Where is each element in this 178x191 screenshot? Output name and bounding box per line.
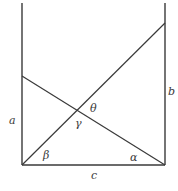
label-c: c — [91, 170, 97, 181]
geometry-diagram: a b c θ γ β α — [0, 0, 178, 191]
label-gamma: γ — [75, 118, 82, 129]
label-alpha: α — [130, 152, 137, 163]
diagram-lines — [0, 0, 178, 191]
label-beta: β — [43, 150, 49, 161]
label-a: a — [9, 115, 16, 126]
label-b: b — [168, 86, 175, 97]
rising-line — [22, 23, 165, 165]
label-theta: θ — [90, 103, 97, 114]
